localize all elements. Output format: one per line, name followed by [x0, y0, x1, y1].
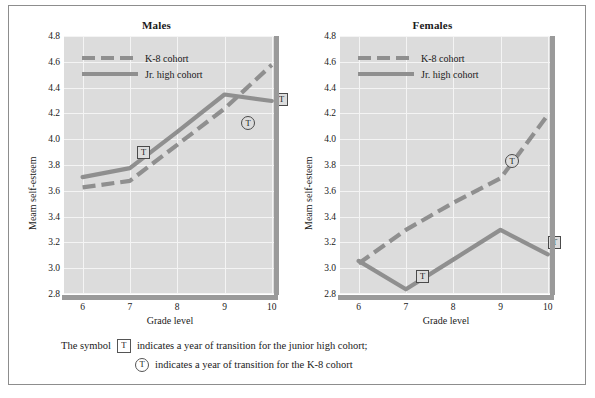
x-tick: 7	[118, 302, 142, 312]
chart-panel-females: Females Meam self-esteem 4.8 4.6 4.4 4.2…	[291, 6, 580, 336]
legend-item-jr-high-males: Jr. high cohort	[82, 66, 203, 82]
legend-item-k8-females: K-8 cohort	[358, 50, 479, 66]
caption-prefix: The symbol	[61, 340, 111, 351]
y-tick: 3.6	[310, 186, 336, 196]
y-tick: 2.8	[310, 289, 336, 299]
y-tick: 3.8	[34, 160, 60, 170]
x-axis-males	[62, 295, 278, 300]
transition-marker-k8-grade9-males: T	[241, 116, 255, 130]
dashed-line-swatch-icon	[358, 56, 414, 60]
y-tick: 4.8	[34, 31, 60, 41]
y-tick: 4.6	[310, 57, 336, 67]
legend-label-k8: K-8 cohort	[421, 53, 465, 64]
x-tick: 10	[260, 302, 284, 312]
chart-panel-males: Males Meam self-esteem 4.8 4.6 4.4 4.2 4…	[9, 6, 298, 336]
line-jr-high-cohort-females	[359, 230, 548, 289]
legend-item-k8-males: K-8 cohort	[82, 50, 203, 66]
y-tick: 2.8	[34, 289, 60, 299]
plot-area-males: T T T K-8 cohort Jr. high cohort	[64, 36, 276, 294]
panel-title-females: Females	[325, 19, 540, 31]
legend-males: K-8 cohort Jr. high cohort	[82, 50, 203, 82]
x-axis-label-males: Grade level	[64, 315, 276, 326]
right-axis-males	[274, 36, 279, 295]
legend-label-jr-high: Jr. high cohort	[421, 69, 479, 80]
y-tick: 4.0	[34, 134, 60, 144]
legend-label-k8: K-8 cohort	[145, 53, 189, 64]
y-tick: 3.6	[34, 186, 60, 196]
y-tick: 4.2	[310, 108, 336, 118]
solid-line-swatch-icon	[358, 72, 414, 76]
x-tick: 8	[441, 302, 465, 312]
transition-marker-k8-grade9-females: T	[505, 154, 519, 168]
x-tick: 6	[347, 302, 371, 312]
y-tick: 3.4	[310, 212, 336, 222]
y-tick: 3.0	[310, 263, 336, 273]
x-tick: 9	[489, 302, 513, 312]
legend-label-jr-high: Jr. high cohort	[145, 69, 203, 80]
y-tick: 3.8	[310, 160, 336, 170]
figure-frame: Males Meam self-esteem 4.8 4.6 4.4 4.2 4…	[8, 5, 586, 385]
x-axis-label-females: Grade level	[340, 315, 552, 326]
y-tick: 4.2	[34, 108, 60, 118]
caption-line-k8: T indicates a year of transition for the…	[9, 355, 587, 374]
y-axis-ticks-males: 4.8 4.6 4.4 4.2 4.0 3.8 3.6 3.4 3.2 3.0 …	[30, 36, 60, 294]
y-tick: 4.4	[310, 83, 336, 93]
plot-area-females: T T T K-8 cohort Jr. high cohort	[340, 36, 552, 294]
y-tick: 4.4	[34, 83, 60, 93]
x-tick: 9	[213, 302, 237, 312]
x-axis-females	[338, 295, 554, 300]
figure-caption: The symbol T indicates a year of transit…	[9, 336, 587, 374]
circle-t-symbol-icon: T	[135, 358, 149, 372]
x-tick: 8	[165, 302, 189, 312]
y-tick: 3.2	[310, 237, 336, 247]
panel-title-males: Males	[49, 19, 264, 31]
x-tick: 10	[536, 302, 560, 312]
x-tick: 7	[394, 302, 418, 312]
x-tick: 6	[71, 302, 95, 312]
line-jr-high-cohort-males	[83, 95, 272, 178]
caption-line-jr-high: The symbol T indicates a year of transit…	[9, 336, 587, 355]
y-tick: 3.2	[34, 237, 60, 247]
caption-text-jr-high: indicates a year of transition for the j…	[137, 340, 368, 351]
caption-text-k8: indicates a year of transition for the K…	[155, 359, 353, 370]
y-tick: 4.6	[34, 57, 60, 67]
legend-item-jr-high-females: Jr. high cohort	[358, 66, 479, 82]
y-tick: 4.8	[310, 31, 336, 41]
transition-marker-jr-high-grade7-males: T	[137, 146, 150, 159]
transition-marker-jr-high-grade7-females: T	[416, 270, 429, 283]
legend-females: K-8 cohort Jr. high cohort	[358, 50, 479, 82]
dashed-line-swatch-icon	[82, 56, 138, 60]
y-tick: 3.0	[34, 263, 60, 273]
solid-line-swatch-icon	[82, 72, 138, 76]
y-tick: 3.4	[34, 212, 60, 222]
y-axis-ticks-females: 4.8 4.6 4.4 4.2 4.0 3.8 3.6 3.4 3.2 3.0 …	[306, 36, 336, 294]
y-tick: 4.0	[310, 134, 336, 144]
square-t-symbol-icon: T	[117, 339, 131, 353]
right-axis-females	[550, 36, 555, 295]
